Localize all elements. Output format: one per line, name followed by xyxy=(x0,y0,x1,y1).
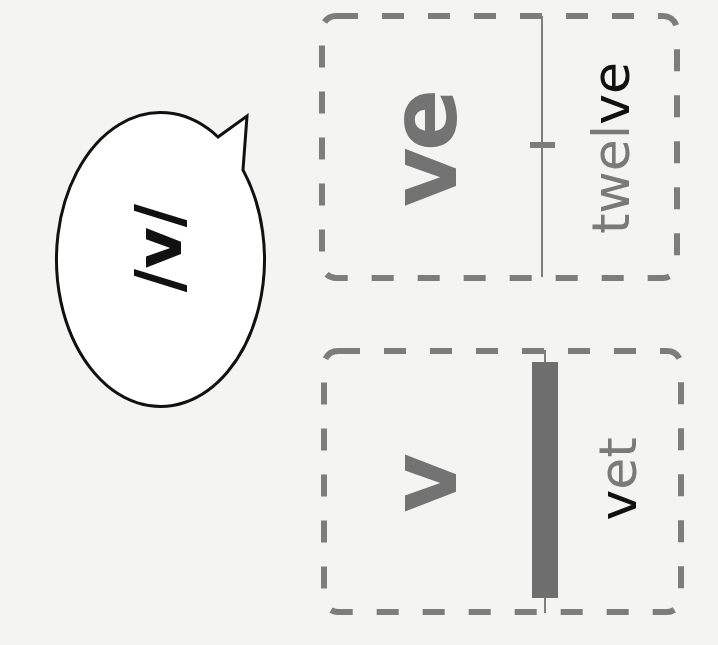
phoneme-label: /v/ xyxy=(127,188,193,308)
word-highlight: v xyxy=(588,490,648,521)
word-prefix: twel xyxy=(581,125,641,234)
example-word-twelve: twelve xyxy=(585,53,641,243)
grapheme-v: v xyxy=(379,443,471,523)
word-suffix: et xyxy=(588,437,648,489)
grapheme-ve: ve xyxy=(379,80,471,220)
word-highlight: ve xyxy=(581,62,641,125)
example-word-vet: vet xyxy=(592,429,648,529)
